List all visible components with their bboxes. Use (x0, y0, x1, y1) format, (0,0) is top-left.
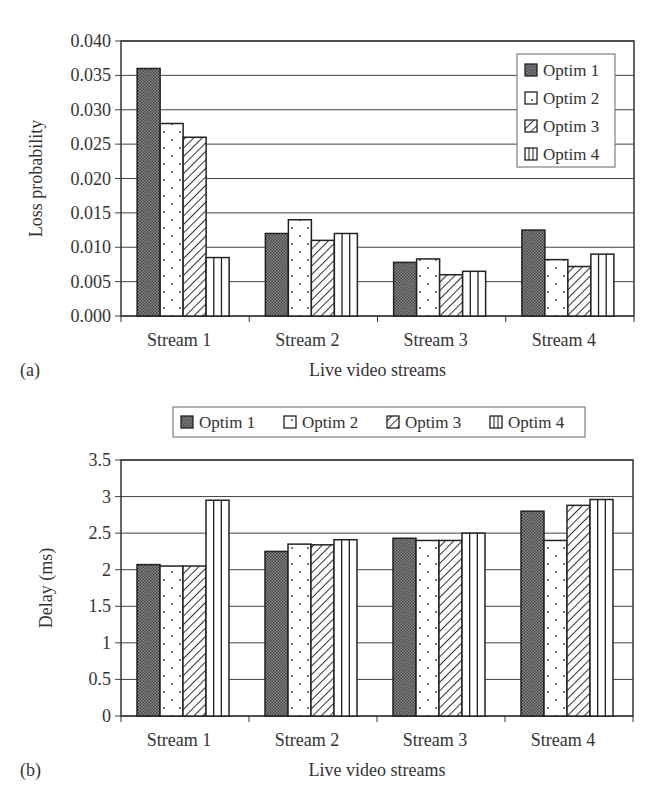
y-tick-label: 0.010 (71, 237, 112, 257)
y-tick-label: 3.5 (89, 450, 112, 470)
bar (265, 551, 288, 716)
chart-a-canvas: 0.0000.0050.0100.0150.0200.0250.0300.035… (0, 0, 665, 400)
bar (521, 511, 544, 716)
x-tick-label: Stream 4 (532, 330, 597, 350)
x-axis-label: Live video streams (309, 760, 446, 780)
y-tick-label: 0.025 (71, 134, 112, 154)
legend: Optim 1Optim 2Optim 3Optim 4 (517, 54, 615, 167)
y-tick-label: 3 (102, 487, 111, 507)
svg-text:Optim 3: Optim 3 (543, 117, 599, 136)
x-tick-label: Stream 3 (403, 330, 468, 350)
bar (137, 69, 160, 317)
x-tick-label: Stream 3 (403, 730, 468, 750)
bar (311, 545, 334, 716)
bar (545, 260, 568, 316)
bar (183, 566, 206, 716)
x-tick-label: Stream 2 (275, 330, 340, 350)
bar (160, 566, 183, 716)
bar (160, 124, 183, 317)
bar (463, 271, 486, 316)
legend: Optim 1Optim 2Optim 3Optim 4 (173, 407, 585, 437)
bar (439, 540, 462, 716)
chart-b-canvas: 00.511.522.533.5Stream 1Stream 2Stream 3… (0, 400, 665, 812)
svg-text:Optim 1: Optim 1 (199, 413, 255, 432)
bar (206, 258, 229, 316)
y-tick-label: 0.035 (71, 65, 112, 85)
bar (394, 262, 417, 316)
bar (393, 538, 416, 716)
chart-b: 00.511.522.533.5Stream 1Stream 2Stream 3… (0, 400, 665, 812)
y-tick-label: 0 (102, 706, 111, 726)
chart-a: 0.0000.0050.0100.0150.0200.0250.0300.035… (0, 0, 665, 400)
bar (416, 540, 439, 716)
svg-text:Optim 2: Optim 2 (302, 413, 358, 432)
panel-label: (b) (20, 760, 41, 781)
bar (567, 505, 590, 716)
y-tick-label: 1 (102, 633, 111, 653)
bar (137, 565, 160, 716)
bar (183, 137, 206, 316)
bar (334, 540, 357, 716)
y-tick-label: 0.000 (71, 306, 112, 326)
bar (544, 540, 567, 716)
svg-text:Optim 2: Optim 2 (543, 89, 599, 108)
bar (288, 220, 311, 316)
bar (417, 259, 440, 316)
y-tick-label: 0.030 (71, 100, 112, 120)
y-tick-label: 1.5 (89, 596, 112, 616)
x-tick-label: Stream 2 (275, 730, 340, 750)
bar (288, 544, 311, 716)
svg-text:Optim 1: Optim 1 (543, 61, 599, 80)
bar (334, 234, 357, 317)
bar (568, 267, 591, 317)
svg-text:Optim 4: Optim 4 (543, 145, 600, 164)
bar (311, 240, 334, 316)
bar (462, 533, 485, 716)
panel-label: (a) (20, 360, 40, 381)
svg-text:Optim 3: Optim 3 (405, 413, 461, 432)
svg-text:Optim 4: Optim 4 (508, 413, 565, 432)
bar (206, 500, 229, 716)
x-tick-label: Stream 4 (531, 730, 596, 750)
y-axis-label: Delay (ms) (36, 548, 57, 628)
y-tick-label: 0.040 (71, 31, 112, 51)
y-tick-label: 0.020 (71, 169, 112, 189)
y-axis-label: Loss probability (26, 120, 46, 238)
x-tick-label: Stream 1 (147, 330, 212, 350)
x-axis-label: Live video streams (309, 360, 446, 380)
bar (265, 234, 288, 317)
bar (440, 275, 463, 316)
y-tick-label: 0.5 (89, 669, 112, 689)
y-tick-label: 2 (102, 560, 111, 580)
bar (522, 230, 545, 316)
y-tick-label: 0.015 (71, 203, 112, 223)
bar (590, 499, 613, 716)
bar (591, 254, 614, 316)
y-tick-label: 2.5 (89, 523, 112, 543)
y-tick-label: 0.005 (71, 272, 112, 292)
x-tick-label: Stream 1 (147, 730, 212, 750)
